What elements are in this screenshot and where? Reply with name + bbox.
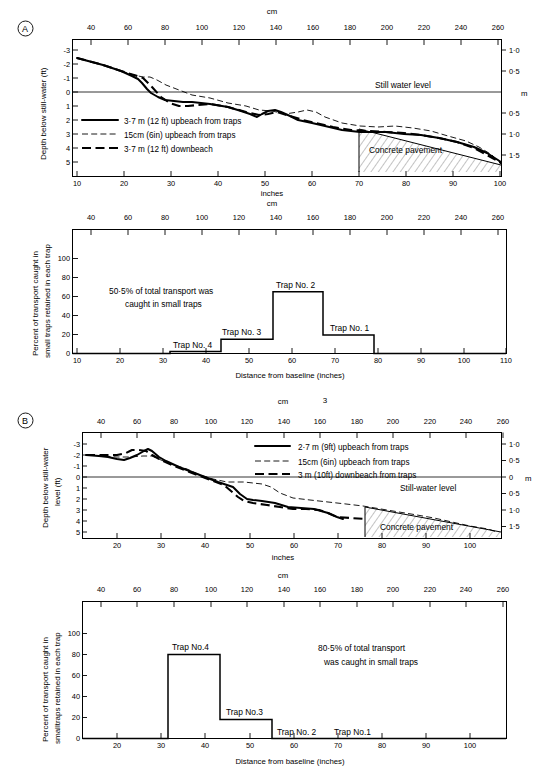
panel-b-bottom-axis-label: inches xyxy=(272,553,295,562)
panel-b-concrete-pavement: Concrete pavement xyxy=(365,507,501,537)
panel-b-bars-annotation-line2: was caught in small traps xyxy=(323,657,418,667)
panel-a-top-axis-label: cm xyxy=(267,7,277,16)
svg-text:70: 70 xyxy=(355,179,363,188)
svg-text:-2: -2 xyxy=(73,451,80,460)
svg-text:20: 20 xyxy=(62,330,70,339)
panel-a-top-axis: 406080 100120140 160180200 220240260 xyxy=(72,23,504,45)
svg-text:0·5: 0·5 xyxy=(509,109,520,118)
panel-b-y-label-line1: Depth below still-water xyxy=(41,447,50,528)
page-number: 3 xyxy=(323,396,328,405)
svg-text:4: 4 xyxy=(66,144,70,153)
svg-text:260: 260 xyxy=(497,417,509,426)
svg-text:20: 20 xyxy=(113,541,121,550)
panel-a-legend-label-1: 15cm (6in) upbeach from traps xyxy=(124,131,236,140)
panel-a-bar-label-trap3: Trap No. 3 xyxy=(222,327,262,337)
svg-text:10: 10 xyxy=(73,179,81,188)
svg-text:40: 40 xyxy=(72,692,80,701)
panel-a-profile: cm 406080 100120140 160180200 220240260 xyxy=(39,7,528,198)
panel-a-bars-annotation-line2: caught in small traps xyxy=(125,299,202,309)
panel-b-legend-label-2: 3 m (10ft) downbeach from traps xyxy=(298,471,416,480)
svg-text:100: 100 xyxy=(196,23,208,32)
svg-text:60: 60 xyxy=(290,541,298,550)
svg-text:240: 240 xyxy=(460,585,472,594)
svg-text:220: 220 xyxy=(418,213,430,222)
svg-text:80: 80 xyxy=(72,650,80,659)
svg-text:80: 80 xyxy=(161,213,169,222)
svg-text:30: 30 xyxy=(157,541,165,550)
panel-b-legend-label-0: 2·7 m (9ft) upbeach from traps xyxy=(298,443,409,452)
panel-a-bars-top-axis-label: cm xyxy=(267,199,277,208)
svg-text:100: 100 xyxy=(464,541,476,550)
panel-b-bar-label-trap3: Trap No.3 xyxy=(226,707,263,717)
svg-text:220: 220 xyxy=(424,417,436,426)
svg-text:40: 40 xyxy=(87,213,95,222)
svg-text:20: 20 xyxy=(120,179,128,188)
svg-text:0·5: 0·5 xyxy=(509,489,520,498)
svg-text:20: 20 xyxy=(116,356,124,365)
svg-text:1·5: 1·5 xyxy=(509,522,520,531)
svg-text:60: 60 xyxy=(124,23,132,32)
svg-text:-1: -1 xyxy=(73,462,80,471)
panel-b-bars-y-axis: 02040 6080100 xyxy=(68,629,87,743)
svg-text:140: 140 xyxy=(270,213,282,222)
svg-text:100: 100 xyxy=(58,254,70,263)
panel-a-bars-y-label-line2: small traps retained in each trap xyxy=(43,244,52,358)
panel-a-bottom-axis-label: inches xyxy=(261,189,284,198)
panel-b-pavement-label: Concrete pavement xyxy=(380,522,454,532)
panel-b-profile: cm 406080 100120140 160180200 220240260 xyxy=(41,397,532,562)
svg-text:160: 160 xyxy=(314,585,326,594)
panel-a-bars-annotation-line1: 50·5% of total transport was xyxy=(109,286,213,296)
svg-text:60: 60 xyxy=(290,741,298,750)
svg-text:40: 40 xyxy=(214,179,222,188)
svg-text:0: 0 xyxy=(66,88,70,97)
svg-text:120: 120 xyxy=(233,23,245,32)
panel-b-bars: cm 406080 100120140 160180200 220240260 xyxy=(41,571,509,766)
svg-text:60: 60 xyxy=(308,179,316,188)
svg-text:80: 80 xyxy=(62,273,70,282)
svg-text:180: 180 xyxy=(344,213,356,222)
svg-text:1·0: 1·0 xyxy=(509,130,520,139)
svg-text:-2: -2 xyxy=(63,60,70,69)
svg-text:3: 3 xyxy=(76,506,80,515)
svg-text:100: 100 xyxy=(68,629,80,638)
panel-b-bar-label-trap1: Trap No.1 xyxy=(334,727,371,737)
svg-text:70: 70 xyxy=(334,741,342,750)
svg-text:80: 80 xyxy=(374,356,382,365)
svg-text:60: 60 xyxy=(133,585,141,594)
svg-text:-3: -3 xyxy=(63,46,70,55)
panel-a-bars-y-axis: 02040 6080100 xyxy=(58,254,78,358)
svg-text:120: 120 xyxy=(241,417,253,426)
svg-text:140: 140 xyxy=(270,23,282,32)
svg-text:10: 10 xyxy=(73,356,81,365)
svg-text:4: 4 xyxy=(76,517,80,526)
svg-text:100: 100 xyxy=(205,585,217,594)
svg-text:70: 70 xyxy=(331,356,339,365)
svg-text:50: 50 xyxy=(245,356,253,365)
panel-a-legend: 3·7 m (12 ft) upbeach from traps 15cm (6… xyxy=(82,117,241,154)
svg-text:180: 180 xyxy=(344,23,356,32)
svg-text:3: 3 xyxy=(66,130,70,139)
svg-text:140: 140 xyxy=(278,417,290,426)
panel-b-left-axis: -3-2-1 012 345 xyxy=(73,440,87,537)
svg-text:240: 240 xyxy=(455,23,467,32)
svg-text:30: 30 xyxy=(157,741,165,750)
svg-text:80: 80 xyxy=(170,417,178,426)
svg-text:60: 60 xyxy=(62,292,70,301)
svg-text:60: 60 xyxy=(124,213,132,222)
svg-text:0: 0 xyxy=(76,473,80,482)
panel-b-legend: 2·7 m (9ft) upbeach from traps 15cm (6in… xyxy=(255,443,416,480)
svg-text:30: 30 xyxy=(167,179,175,188)
svg-text:70: 70 xyxy=(334,541,342,550)
svg-text:50: 50 xyxy=(261,179,269,188)
svg-text:60: 60 xyxy=(288,356,296,365)
svg-text:1·0: 1·0 xyxy=(509,440,520,449)
svg-text:1·0: 1·0 xyxy=(509,506,520,515)
panel-a-bars: cm 406080 100120140 160180200 220240260 xyxy=(31,199,512,380)
panel-b-bar-outline xyxy=(83,655,507,739)
svg-text:20: 20 xyxy=(113,741,121,750)
panel-b-bottom-axis: 203040 506070 8090100 inches xyxy=(113,533,476,562)
svg-text:-3: -3 xyxy=(73,440,80,449)
svg-text:80: 80 xyxy=(170,585,178,594)
svg-text:240: 240 xyxy=(460,417,472,426)
panel-a-right-axis-label: m xyxy=(521,89,528,98)
